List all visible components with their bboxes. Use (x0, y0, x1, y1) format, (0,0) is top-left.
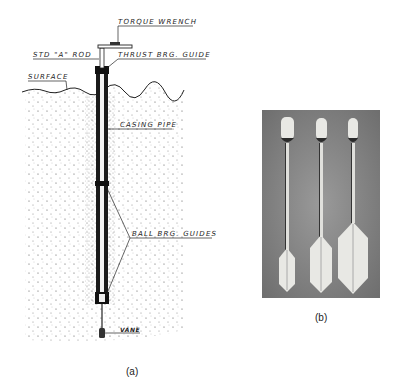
label-torque-wrench: TORQUE WRENCH (118, 18, 197, 26)
label-std-a-rod: STD "A" ROD (33, 51, 92, 59)
vane (99, 328, 105, 338)
std-a-rod (100, 48, 104, 68)
label-ball-brg-guides: BALL BRG. GUIDES (132, 230, 217, 238)
ball-bearing-guide-upper (95, 181, 109, 186)
caption-a: (a) (126, 366, 138, 377)
label-thrust-brg-guide: THRUST BRG. GUIDE (118, 51, 211, 59)
vane-photograph (262, 110, 380, 298)
caption-b: (b) (315, 312, 327, 323)
label-casing-pipe: CASING PIPE (120, 121, 177, 129)
label-surface: SURFACE (28, 73, 69, 81)
torque-wrench (98, 45, 132, 48)
label-vane: VANE (120, 326, 140, 334)
